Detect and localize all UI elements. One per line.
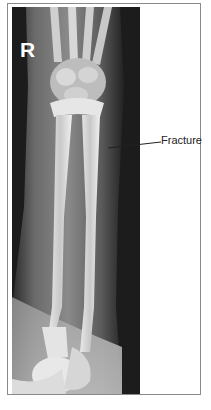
- fracture-callout-label: Fracture: [161, 134, 202, 146]
- forearm-xray-image: [12, 7, 140, 394]
- fracture-leader-line: [108, 141, 162, 149]
- side-marker-label: R: [20, 38, 35, 62]
